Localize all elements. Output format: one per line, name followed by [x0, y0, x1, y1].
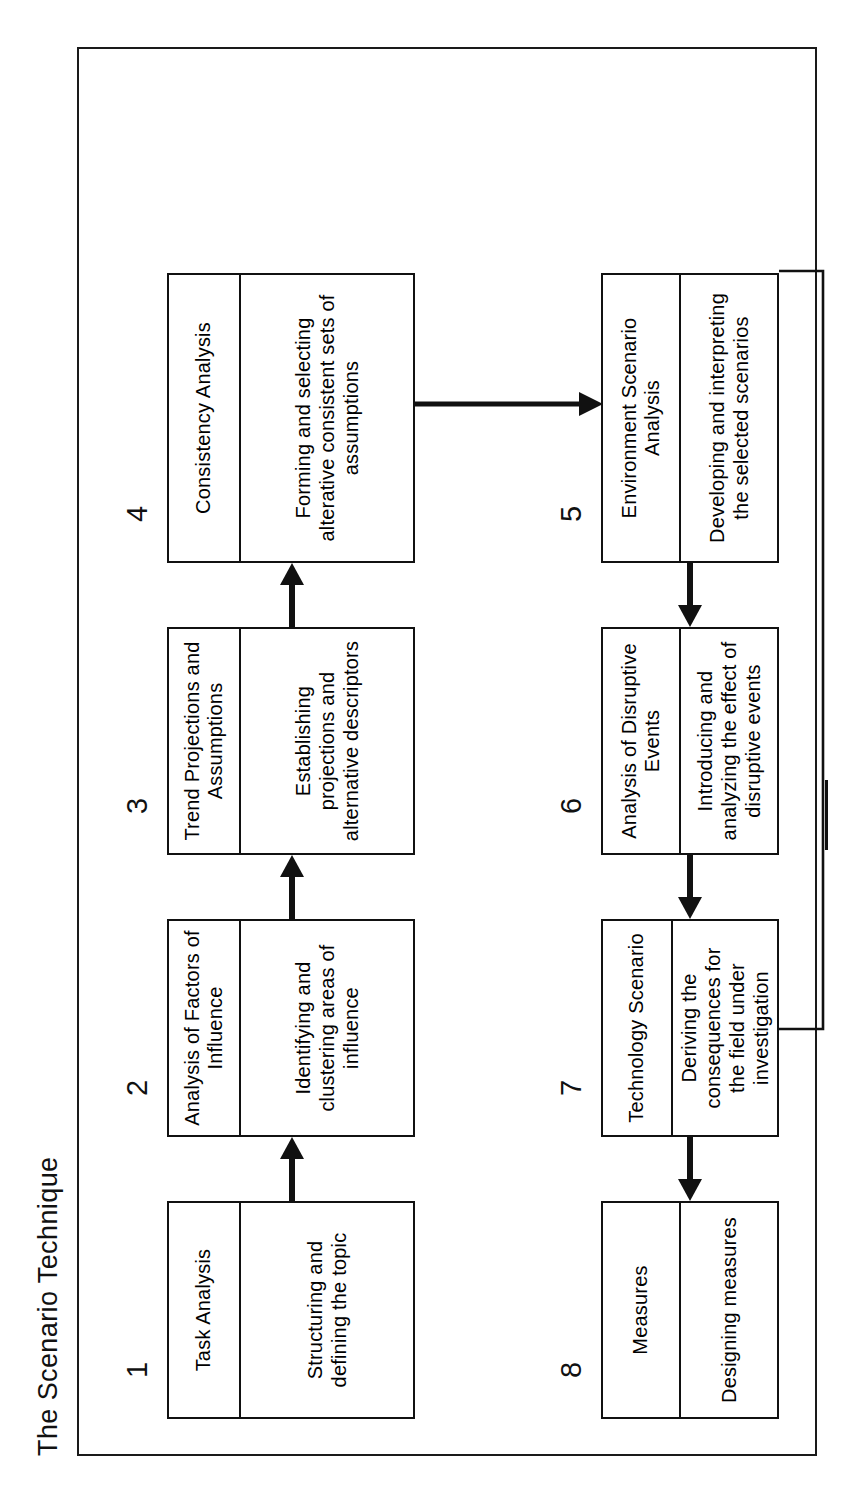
stage-4-title: Consistency Analysis — [169, 275, 241, 561]
stage-box-1[interactable]: Task Analysis Structuring and defining t… — [167, 1201, 415, 1419]
diagram-page: The Scenario Technique 1 Task Analysis S… — [0, 0, 854, 1497]
stage-1-description: Structuring and defining the topic — [241, 1203, 413, 1417]
step-number-6: 6 — [557, 797, 586, 813]
stage-8-title: Measures — [603, 1203, 681, 1417]
page-title: The Scenario Technique — [33, 1156, 64, 1456]
connector-2-to-3 — [275, 855, 309, 919]
step-number-8: 8 — [557, 1361, 586, 1377]
connector-4-to-5 — [413, 384, 603, 424]
stage-2-title: Analysis of Factors of Influence — [169, 921, 241, 1135]
stage-box-5[interactable]: Environment Scenario Analysis Developing… — [601, 273, 779, 563]
stage-box-2[interactable]: Analysis of Factors of Influence Identif… — [167, 919, 415, 1137]
step-number-4: 4 — [123, 505, 152, 521]
stage-box-7[interactable]: Technology Scenario Deriving the consequ… — [601, 919, 779, 1137]
stage-box-3[interactable]: Trend Projections and Assumptions Establ… — [167, 627, 415, 855]
connector-5-to-6 — [673, 563, 707, 627]
stage-5-title: Environment Scenario Analysis — [603, 275, 681, 561]
step-number-1: 1 — [123, 1361, 152, 1377]
stage-7-title: Technology Scenario — [603, 921, 673, 1135]
stage-box-4[interactable]: Consistency Analysis Forming and selecti… — [167, 273, 415, 563]
connector-7-to-8 — [673, 1137, 707, 1201]
step-number-2: 2 — [123, 1079, 152, 1095]
connector-1-to-2 — [275, 1137, 309, 1201]
stage-5-description: Developing and interpreting the selected… — [681, 275, 777, 561]
rotated-diagram-canvas: The Scenario Technique 1 Task Analysis S… — [27, 34, 827, 1464]
stage-8-description: Designing measures — [681, 1203, 777, 1417]
stage-3-description: Establishing projections and alternative… — [241, 629, 413, 853]
stage-box-8[interactable]: Measures Designing measures — [601, 1201, 779, 1419]
step-number-5: 5 — [557, 505, 586, 521]
connector-feedback-7-to-5 — [777, 257, 831, 1137]
stage-box-6[interactable]: Analysis of Disruptive Events Introducin… — [601, 627, 779, 855]
connector-6-to-7 — [673, 855, 707, 919]
stage-3-title: Trend Projections and Assumptions — [169, 629, 241, 853]
stage-6-title: Analysis of Disruptive Events — [603, 629, 681, 853]
step-number-7: 7 — [557, 1079, 586, 1095]
stage-7-description: Deriving the consequences for the field … — [673, 921, 777, 1135]
stage-1-title: Task Analysis — [169, 1203, 241, 1417]
stage-6-description: Introducing and analyzing the effect of … — [681, 629, 777, 853]
stage-2-description: Identifying and clustering areas of infl… — [241, 921, 413, 1135]
step-number-3: 3 — [123, 797, 152, 813]
connector-3-to-4 — [275, 563, 309, 627]
stage-4-description: Forming and selecting alterative consist… — [241, 275, 413, 561]
